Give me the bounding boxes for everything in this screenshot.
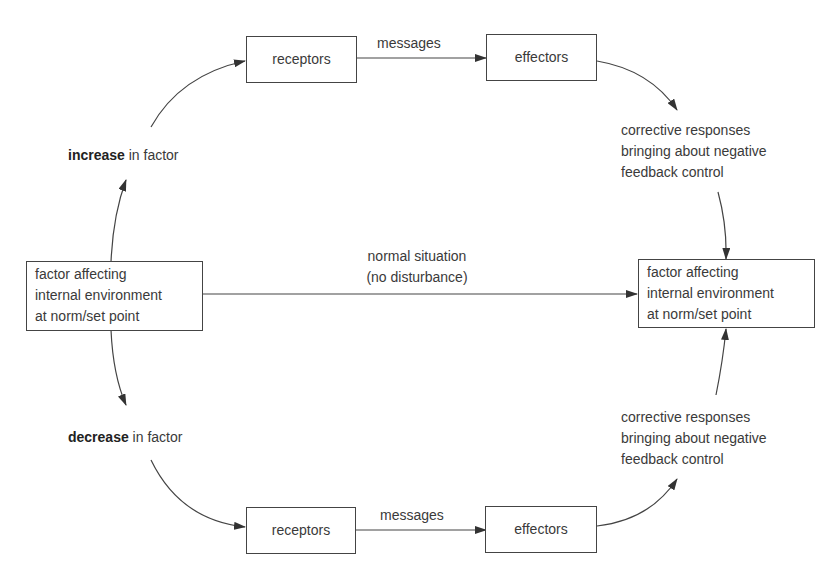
increase-rest: in factor	[125, 147, 179, 163]
bottom-effectors-label: effectors	[514, 520, 567, 539]
arrow-corrective-to-end-top	[718, 192, 726, 259]
bottom-messages-label: messages	[380, 505, 444, 526]
normal-situation-label: normal situation (no disturbance)	[352, 246, 482, 288]
top-effectors-box: effectors	[486, 34, 597, 81]
bottom-effectors-box: effectors	[485, 506, 597, 553]
end-factor-line-2: internal environment	[647, 283, 814, 304]
bottom-messages-text: messages	[380, 507, 444, 523]
arrow-corrective-to-end-bottom	[716, 329, 726, 395]
increase-in-factor-label: increase in factor	[68, 145, 179, 166]
end-factor-line-3: at norm/set point	[647, 304, 814, 325]
bottom-corrective-line-2: bringing about negative	[621, 428, 767, 449]
bottom-receptors-label: receptors	[272, 521, 330, 540]
decrease-rest: in factor	[129, 429, 183, 445]
arrow-start-to-decrease	[111, 330, 126, 405]
top-messages-label: messages	[377, 33, 441, 54]
decrease-in-factor-label: decrease in factor	[68, 427, 182, 448]
bottom-receptors-box: receptors	[246, 507, 356, 554]
top-receptors-box: receptors	[246, 36, 357, 83]
end-factor-line-1: factor affecting	[647, 262, 814, 283]
top-corrective-line-2: bringing about negative	[621, 141, 767, 162]
decrease-bold: decrease	[68, 429, 129, 445]
top-corrective-responses-label: corrective responses bringing about nega…	[621, 120, 767, 183]
bottom-corrective-line-1: corrective responses	[621, 407, 767, 428]
top-effectors-label: effectors	[515, 48, 568, 67]
increase-bold: increase	[68, 147, 125, 163]
bottom-corrective-responses-label: corrective responses bringing about nega…	[621, 407, 767, 470]
arrow-increase-to-receptors	[151, 61, 245, 127]
arrow-decrease-to-receptors	[151, 460, 245, 527]
normal-line-2: (no disturbance)	[352, 267, 482, 288]
top-corrective-line-1: corrective responses	[621, 120, 767, 141]
arrow-effectors-to-corrective-top	[597, 61, 677, 110]
start-factor-line-1: factor affecting	[35, 264, 202, 285]
start-factor-box: factor affecting internal environment at…	[26, 261, 203, 331]
start-factor-line-2: internal environment	[35, 285, 202, 306]
bottom-corrective-line-3: feedback control	[621, 449, 767, 470]
arrow-effectors-to-corrective-bottom	[597, 479, 677, 526]
end-factor-box: factor affecting internal environment at…	[638, 259, 815, 328]
top-receptors-label: receptors	[272, 50, 330, 69]
arrow-start-to-increase	[111, 180, 126, 262]
normal-line-1: normal situation	[352, 246, 482, 267]
top-corrective-line-3: feedback control	[621, 162, 767, 183]
top-messages-text: messages	[377, 35, 441, 51]
start-factor-line-3: at norm/set point	[35, 306, 202, 327]
